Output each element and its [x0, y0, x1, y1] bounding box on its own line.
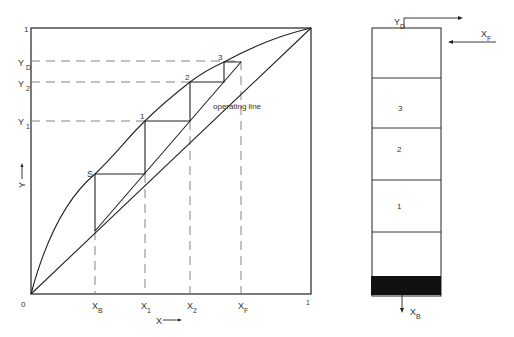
svg-text:X: X: [156, 316, 162, 326]
svg-text:Y: Y: [17, 182, 27, 188]
svg-text:D: D: [400, 23, 405, 30]
stage-label-s: S: [87, 169, 93, 179]
diagonal-line: [31, 28, 311, 294]
x-tick-xb: X B: [92, 301, 103, 314]
feed-stream: X F: [448, 29, 496, 44]
horizontal-guides: [31, 61, 241, 121]
operating-line-label: operating line: [213, 102, 262, 111]
stage-label-1: 1: [140, 112, 145, 121]
arrow-down-icon: [400, 308, 404, 313]
svg-text:D: D: [26, 64, 31, 71]
svg-text:Y: Y: [18, 79, 24, 89]
svg-text:B: B: [416, 313, 421, 320]
svg-text:F: F: [244, 307, 248, 314]
bottom-product-stream: X B: [400, 295, 421, 320]
x-max-label: 1: [306, 299, 310, 306]
y-max-label: 1: [24, 25, 29, 34]
tray-label-3: 3: [398, 104, 403, 113]
x-tick-x1: X 1: [141, 301, 151, 314]
y-tick-y2: Y 2: [18, 79, 30, 92]
vertical-guides: [95, 61, 241, 294]
reboiler-block: [371, 276, 441, 295]
x-axis-label: X: [156, 316, 182, 326]
svg-text:Y: Y: [18, 58, 24, 68]
svg-text:2: 2: [193, 307, 197, 314]
svg-text:2: 2: [26, 85, 30, 92]
y-axis-label: Y: [17, 163, 27, 188]
distillation-column: 3 2 1 Y D X F X B: [371, 16, 496, 320]
stage-label-2: 2: [185, 73, 190, 82]
stage-label-3: 3: [218, 53, 223, 62]
svg-text:B: B: [98, 307, 103, 314]
svg-text:Y: Y: [18, 117, 24, 127]
svg-text:1: 1: [26, 123, 30, 130]
tray-label-1: 1: [397, 202, 402, 211]
origin-label: 0: [21, 300, 26, 309]
tray-label-2: 2: [397, 145, 402, 154]
y-tick-yd: Y D: [18, 58, 31, 71]
arrow-right-icon: [458, 16, 463, 20]
x-tick-xf: X F: [238, 301, 248, 314]
svg-text:F: F: [487, 35, 491, 42]
svg-text:1: 1: [147, 307, 151, 314]
x-tick-x2: X 2: [187, 301, 197, 314]
mccabe-thiele-figure: S 1 2 3 operating line 1 0 1 Y D Y 2 Y 1…: [0, 0, 514, 337]
operating-line: [95, 62, 241, 231]
arrow-left-icon: [448, 40, 453, 44]
column-shell: [372, 28, 441, 296]
y-tick-y1: Y 1: [18, 117, 30, 130]
